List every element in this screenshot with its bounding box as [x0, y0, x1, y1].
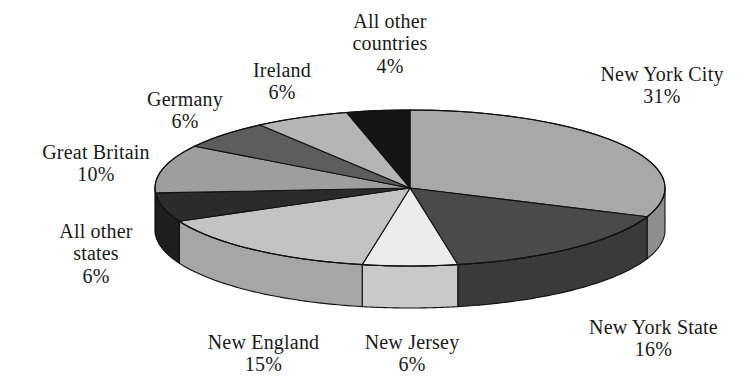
- pie-slice-label-value: 6%: [226, 81, 338, 103]
- pie-slice-label: All other states6%: [36, 220, 156, 287]
- pie-slice-label-value: 16%: [566, 338, 741, 360]
- pie-slice-label: New England15%: [186, 331, 341, 376]
- pie-slice-label: New Jersey6%: [342, 331, 482, 376]
- pie-slice-label-value: 6%: [124, 110, 246, 132]
- pie-chart-figure: New York City31%New York State16%New Jer…: [0, 0, 750, 392]
- pie-slice-label-value: 4%: [322, 55, 458, 77]
- pie-slice-label: New York State16%: [566, 316, 741, 361]
- pie-slice-label-value: 31%: [577, 85, 747, 107]
- pie-slice-label: Great Britain10%: [22, 141, 170, 186]
- pie-slice-label-name: Great Britain: [22, 141, 170, 163]
- pie-slice-label-value: 15%: [186, 353, 341, 375]
- pie-slice-label-value: 10%: [22, 163, 170, 185]
- pie-slice-label: All other countries4%: [322, 10, 458, 77]
- pie-slice-label-name: All other countries: [322, 10, 458, 55]
- pie-slice-label-value: 6%: [36, 265, 156, 287]
- pie-slice-label-name: All other states: [36, 220, 156, 265]
- pie-slice-label-name: New York State: [566, 316, 741, 338]
- pie-slice-label-name: New Jersey: [342, 331, 482, 353]
- pie-slice-label-name: New England: [186, 331, 341, 353]
- pie-slice-label-value: 6%: [342, 353, 482, 375]
- pie-slice-label-name: New York City: [577, 63, 747, 85]
- pie-slice-label: New York City31%: [577, 63, 747, 108]
